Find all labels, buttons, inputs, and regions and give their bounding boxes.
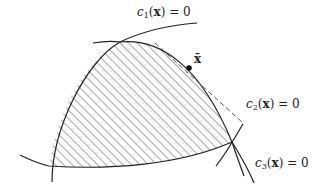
label-c3: c3(x) = 0 <box>255 157 309 171</box>
feasible-region <box>49 42 232 168</box>
label-c3-sub: 3 <box>262 162 267 171</box>
xbar-point <box>186 65 192 71</box>
label-xbar-text: x̄ <box>194 52 201 66</box>
label-c1-fn: c <box>137 5 144 19</box>
label-c2-rhs: = 0 <box>278 97 300 111</box>
label-c2-sub: 2 <box>253 103 258 112</box>
label-c1-arg: x <box>154 5 161 19</box>
label-c2-fn: c <box>246 97 253 111</box>
label-c1-rhs: = 0 <box>169 5 191 19</box>
label-c3-rhs: = 0 <box>287 156 309 170</box>
label-c1-sub: 1 <box>144 11 149 20</box>
label-c3-arg: x <box>272 156 279 170</box>
label-c3-fn: c <box>255 156 262 170</box>
label-xbar: x̄ <box>194 53 201 65</box>
label-c2: c2(x) = 0 <box>246 98 300 112</box>
label-c1: c1(x) = 0 <box>137 6 191 20</box>
label-c2-arg: x <box>263 97 270 111</box>
